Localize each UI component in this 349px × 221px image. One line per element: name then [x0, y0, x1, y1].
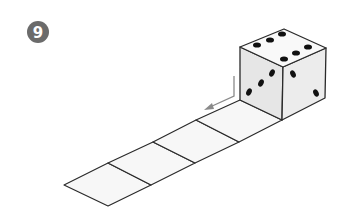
top-pip	[266, 37, 274, 42]
problem-number-badge: 9	[27, 21, 49, 43]
top-pip	[253, 42, 261, 47]
arrow-head-icon	[204, 103, 214, 110]
arrow-shaft	[210, 76, 234, 107]
problem-number: 9	[33, 24, 43, 42]
die	[240, 29, 326, 120]
top-pip	[278, 31, 286, 36]
square-strip	[64, 100, 282, 206]
top-pip	[292, 50, 300, 55]
top-pip	[304, 44, 312, 49]
top-pip	[280, 56, 288, 61]
die-rolling-figure: 9	[0, 0, 349, 221]
